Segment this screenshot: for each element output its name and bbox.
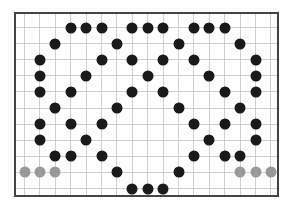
black-stone[interactable] xyxy=(235,151,246,162)
grid-line-vertical xyxy=(86,14,87,195)
grid-line-horizontal xyxy=(16,124,277,125)
black-stone[interactable] xyxy=(127,183,138,194)
black-stone[interactable] xyxy=(50,103,61,114)
gray-stone[interactable] xyxy=(250,167,261,178)
black-stone[interactable] xyxy=(158,54,169,65)
black-stone[interactable] xyxy=(142,22,153,33)
black-stone[interactable] xyxy=(235,38,246,49)
grid-line-vertical xyxy=(147,14,148,195)
black-stone[interactable] xyxy=(142,70,153,81)
black-stone[interactable] xyxy=(173,167,184,178)
black-stone[interactable] xyxy=(96,54,107,65)
black-stone[interactable] xyxy=(188,119,199,130)
black-stone[interactable] xyxy=(127,22,138,33)
black-stone[interactable] xyxy=(158,183,169,194)
black-stone[interactable] xyxy=(250,135,261,146)
black-stone[interactable] xyxy=(50,151,61,162)
black-stone[interactable] xyxy=(127,86,138,97)
gray-stone[interactable] xyxy=(235,167,246,178)
black-stone[interactable] xyxy=(188,22,199,33)
black-stone[interactable] xyxy=(158,86,169,97)
black-stone[interactable] xyxy=(250,54,261,65)
gray-stone[interactable] xyxy=(34,167,45,178)
grid-line-vertical xyxy=(101,14,102,195)
gray-stone[interactable] xyxy=(50,167,61,178)
black-stone[interactable] xyxy=(96,151,107,162)
black-stone[interactable] xyxy=(65,22,76,33)
black-stone[interactable] xyxy=(111,38,122,49)
black-stone[interactable] xyxy=(81,135,92,146)
black-stone[interactable] xyxy=(204,22,215,33)
black-stone[interactable] xyxy=(173,103,184,114)
black-stone[interactable] xyxy=(219,22,230,33)
black-stone[interactable] xyxy=(219,86,230,97)
black-stone[interactable] xyxy=(188,54,199,65)
grid-line-vertical xyxy=(70,14,71,195)
black-stone[interactable] xyxy=(111,103,122,114)
black-stone[interactable] xyxy=(65,151,76,162)
black-stone[interactable] xyxy=(250,119,261,130)
black-stone[interactable] xyxy=(158,22,169,33)
black-stone[interactable] xyxy=(204,70,215,81)
game-board[interactable] xyxy=(14,12,279,197)
black-stone[interactable] xyxy=(250,86,261,97)
black-stone[interactable] xyxy=(34,70,45,81)
grid-line-horizontal xyxy=(16,140,277,141)
grid-line-vertical xyxy=(132,14,133,195)
black-stone[interactable] xyxy=(81,22,92,33)
black-stone[interactable] xyxy=(96,22,107,33)
grid-line-horizontal xyxy=(16,91,277,92)
grid-line-vertical xyxy=(163,14,164,195)
gray-stone[interactable] xyxy=(19,167,30,178)
black-stone[interactable] xyxy=(250,70,261,81)
black-stone[interactable] xyxy=(111,167,122,178)
grid-line-vertical xyxy=(193,14,194,195)
grid-line-horizontal xyxy=(16,59,277,60)
black-stone[interactable] xyxy=(127,54,138,65)
black-stone[interactable] xyxy=(65,86,76,97)
black-stone[interactable] xyxy=(142,183,153,194)
grid-line-vertical xyxy=(209,14,210,195)
black-stone[interactable] xyxy=(173,38,184,49)
black-stone[interactable] xyxy=(65,119,76,130)
black-stone[interactable] xyxy=(204,135,215,146)
grid-line-vertical xyxy=(224,14,225,195)
black-stone[interactable] xyxy=(34,119,45,130)
black-stone[interactable] xyxy=(235,103,246,114)
gray-stone[interactable] xyxy=(265,167,276,178)
black-stone[interactable] xyxy=(34,86,45,97)
black-stone[interactable] xyxy=(188,151,199,162)
black-stone[interactable] xyxy=(34,135,45,146)
black-stone[interactable] xyxy=(34,54,45,65)
black-stone[interactable] xyxy=(96,119,107,130)
black-stone[interactable] xyxy=(50,38,61,49)
black-stone[interactable] xyxy=(219,119,230,130)
black-stone[interactable] xyxy=(81,70,92,81)
black-stone[interactable] xyxy=(219,151,230,162)
